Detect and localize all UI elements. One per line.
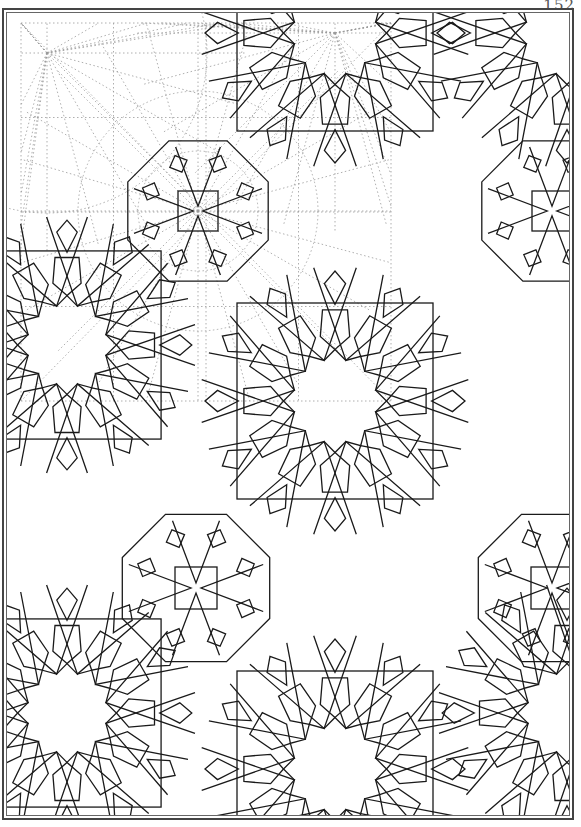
construction-radial <box>21 23 47 53</box>
rosette-strap <box>209 63 305 159</box>
construction-radial <box>235 33 335 206</box>
construction-radial <box>47 23 147 53</box>
construction-radial <box>47 23 220 53</box>
cross-motif <box>482 141 569 281</box>
construction-radial <box>142 33 335 85</box>
construction-radial <box>21 53 47 153</box>
rosette-kite <box>557 588 569 620</box>
rosette-petal <box>380 13 421 14</box>
cross-strap <box>203 189 262 234</box>
rosette-strap <box>209 643 305 739</box>
rosette-star <box>18 664 117 763</box>
cross-strap <box>201 565 263 612</box>
rosette-petal <box>250 713 291 750</box>
cross-strap <box>173 521 220 583</box>
cross-square <box>531 567 569 609</box>
rosette-petal <box>482 53 523 90</box>
rosette-star <box>18 296 117 395</box>
rosette-strap <box>7 752 87 815</box>
construction-radial <box>194 33 335 174</box>
rosette-kite <box>7 793 21 815</box>
construction-radial <box>162 33 335 133</box>
construction-radial <box>335 23 387 33</box>
rosette-petal <box>279 684 316 725</box>
cross-square <box>532 191 569 231</box>
rosette-strap <box>209 431 305 527</box>
construction-radial <box>335 33 391 206</box>
rosette-petal <box>250 421 291 458</box>
rosette-kite <box>205 758 238 779</box>
rosette-kite <box>160 703 192 723</box>
rosette-petal <box>279 316 316 357</box>
construction-radial <box>21 23 47 53</box>
rosette-strap <box>446 742 539 816</box>
rosette-motif <box>202 636 469 815</box>
rosette-petal <box>355 684 392 725</box>
rosette-petal <box>355 446 392 487</box>
cross-octagon <box>122 514 269 661</box>
rosette-strap <box>47 752 149 815</box>
rosette-strap <box>96 224 189 317</box>
rosette-petal <box>511 78 548 119</box>
construction-radial <box>21 23 47 53</box>
rosette-strap <box>7 592 39 685</box>
rosette-petal <box>355 78 392 119</box>
rosette-petal <box>250 13 291 14</box>
cross-strap <box>529 593 570 655</box>
rosette-strap <box>7 374 39 467</box>
cross-motif <box>122 514 269 661</box>
rosette-motif <box>434 13 569 166</box>
construction-radial <box>47 23 188 53</box>
construction-radial <box>47 53 240 105</box>
rosette-motif <box>439 585 569 815</box>
rosette-strap <box>441 63 537 159</box>
rosette-star <box>518 664 569 763</box>
rosette-motif <box>7 585 195 815</box>
rosette-kite <box>324 498 345 531</box>
rosette-petal <box>279 78 316 119</box>
rosette-strap <box>365 799 461 815</box>
rosette-kite <box>324 271 345 304</box>
rosette-strap <box>485 585 569 674</box>
rosette-petal <box>482 13 523 14</box>
pattern-lines <box>7 13 569 815</box>
construction-radial <box>21 23 47 53</box>
rosette-kite <box>432 758 465 779</box>
rosette-strap <box>7 224 39 317</box>
rosette-petal <box>380 713 421 750</box>
rosette-kite <box>57 588 77 620</box>
rosette-strap <box>365 431 461 527</box>
rosette-kite <box>432 390 465 411</box>
cross-motif <box>478 514 569 661</box>
rosette-strap <box>96 742 189 816</box>
rosette-kite <box>324 639 345 672</box>
rosette-petal <box>250 345 291 382</box>
rosette-petal <box>380 421 421 458</box>
construction-radial <box>47 53 188 194</box>
construction-lines <box>7 13 391 401</box>
cross-strap <box>176 147 221 206</box>
rosette-strap <box>7 742 39 816</box>
construction-radial <box>21 23 47 53</box>
cross-strap <box>485 565 547 612</box>
rosette-strap <box>365 643 461 739</box>
cross-strap <box>557 189 569 234</box>
rosette-petal <box>7 331 18 359</box>
rosette-petal <box>279 446 316 487</box>
cross-strap <box>173 593 220 655</box>
rosette-petal <box>250 53 291 90</box>
cross-strap <box>129 565 191 612</box>
geometric-pattern-plate <box>7 13 569 815</box>
rosette-petal <box>7 699 18 727</box>
rosette-square <box>237 671 433 815</box>
construction-radial <box>21 53 47 194</box>
construction-radial <box>21 53 47 105</box>
rosette-petal <box>380 53 421 90</box>
construction-radial <box>198 211 391 263</box>
construction-radial <box>21 53 47 246</box>
cross-square <box>175 567 217 609</box>
rosette-star <box>284 350 387 453</box>
construction-radial <box>283 33 335 226</box>
construction-radial <box>47 53 99 246</box>
cross-strap <box>488 189 547 234</box>
